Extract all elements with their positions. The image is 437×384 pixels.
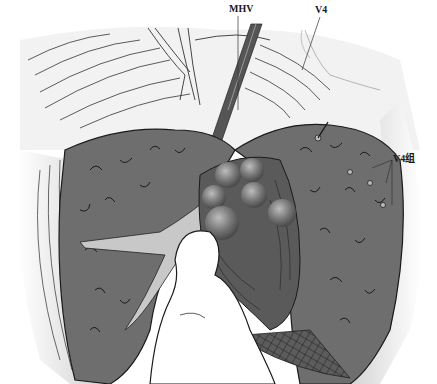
label-mhv: MHV bbox=[229, 4, 253, 14]
surgical-illustration: MHV V4 V4组 bbox=[0, 0, 437, 384]
label-v4: V4 bbox=[315, 5, 327, 15]
label-v4-group: V4组 bbox=[393, 154, 415, 164]
